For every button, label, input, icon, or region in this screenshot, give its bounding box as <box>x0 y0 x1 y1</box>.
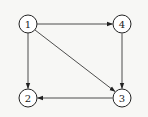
edge-1-3 <box>35 30 115 92</box>
node-1: 1 <box>19 15 37 33</box>
node-label: 3 <box>119 93 125 104</box>
node-3: 3 <box>113 89 131 107</box>
node-2: 2 <box>19 89 37 107</box>
edges <box>28 24 122 98</box>
node-label: 2 <box>25 93 31 104</box>
graph-svg: 1 4 2 3 <box>0 0 148 117</box>
node-label: 1 <box>25 19 31 30</box>
node-label: 4 <box>119 19 125 30</box>
directed-graph: 1 4 2 3 <box>0 0 148 117</box>
node-4: 4 <box>113 15 131 33</box>
